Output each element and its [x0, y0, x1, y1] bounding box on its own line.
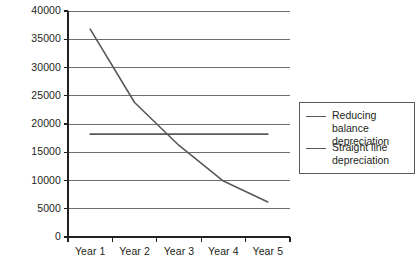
x-tick-label: Year 3 — [157, 245, 201, 257]
gridlines — [68, 11, 290, 237]
x-tick-label: Year 2 — [112, 245, 156, 257]
series-line-0 — [90, 29, 268, 202]
chart-legend: Reducing balance depreciation Straight l… — [299, 102, 415, 174]
y-tick-label: 5000 — [37, 202, 61, 214]
y-tick-label: 10000 — [31, 174, 61, 186]
x-tick-label: Year 5 — [246, 245, 290, 257]
y-tick-label: 20000 — [31, 117, 61, 129]
legend-label: Straight line depreciation — [332, 141, 416, 167]
legend-swatch-icon — [306, 148, 326, 149]
x-tick-label: Year 4 — [201, 245, 245, 257]
depreciation-line-chart: 0500010000150002000025000300003500040000… — [0, 0, 419, 263]
y-tick-label: 25000 — [31, 89, 61, 101]
x-tick-label: Year 1 — [68, 245, 112, 257]
y-tick-label: 35000 — [31, 32, 61, 44]
y-tick-label: 0 — [55, 230, 61, 242]
x-axis-tick-marks — [68, 237, 290, 242]
legend-swatch-icon — [306, 116, 326, 117]
y-tick-label: 15000 — [31, 145, 61, 157]
y-tick-label: 30000 — [31, 61, 61, 73]
data-series-lines — [90, 29, 268, 202]
y-tick-label: 40000 — [31, 4, 61, 16]
